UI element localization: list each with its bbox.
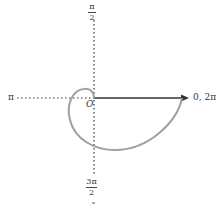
label-pi-over-2: π 2 [88, 3, 96, 22]
label-0-2pi: 0, 2π [193, 93, 216, 102]
label-3pi-over-2-numerator: 3π [86, 178, 96, 186]
label-pi: π [8, 93, 14, 102]
label-3pi-over-2: 3π 2 [86, 178, 97, 197]
label-pi-over-2-numerator: π [89, 3, 94, 11]
polar-diagram [0, 0, 220, 206]
origin-label: O [86, 100, 93, 109]
label-3pi-over-2-denominator: 2 [89, 189, 94, 197]
label-pi-over-2-denominator: 2 [89, 14, 94, 22]
